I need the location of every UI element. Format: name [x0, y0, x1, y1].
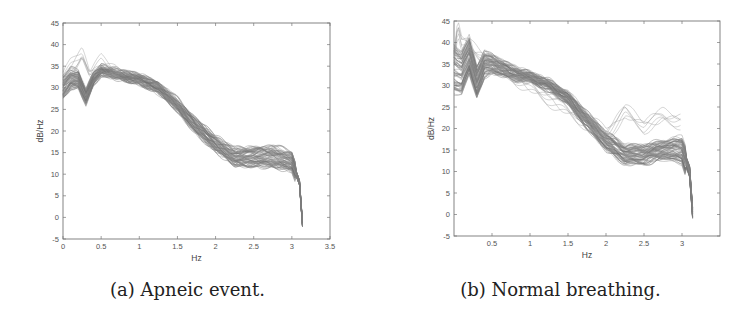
y-tick-label: 25	[51, 105, 59, 114]
x-tick-label: 3.5	[325, 242, 335, 251]
y-tick-label: 5	[446, 189, 450, 198]
y-tick-label: 0	[446, 210, 450, 219]
x-tick-label: 2	[604, 239, 608, 248]
y-axis-label: dB/Hz	[426, 117, 436, 140]
chart-panel-a: -505101520253035404500.511.522.533.5HzdB…	[0, 0, 375, 323]
y-tick-label: 5	[55, 191, 59, 200]
psd-traces	[63, 48, 303, 227]
y-tick-label: 45	[51, 19, 59, 28]
chart-panel-b: -50510152025303540450.511.522.53HzdB/Hz …	[375, 0, 750, 323]
caption-a: (a) Apneic event.	[0, 279, 375, 300]
x-tick-label: 0.5	[96, 242, 106, 251]
x-tick-label: 1.5	[563, 239, 573, 248]
x-tick-label: 0.5	[487, 239, 497, 248]
x-tick-label: 1	[137, 242, 141, 251]
psd-traces	[454, 23, 693, 219]
y-tick-label: 40	[442, 38, 450, 47]
y-tick-label: 45	[442, 17, 450, 26]
y-tick-label: 15	[442, 146, 450, 155]
y-tick-label: 40	[51, 40, 59, 49]
y-tick-label: 20	[51, 127, 59, 136]
y-tick-label: 0	[55, 213, 59, 222]
y-axis: -5051015202530354045	[442, 17, 720, 241]
x-axis-label: Hz	[191, 253, 201, 263]
x-tick-label: 2.5	[248, 242, 258, 251]
y-tick-label: 10	[442, 167, 450, 176]
y-tick-label: 20	[442, 124, 450, 133]
y-tick-label: -5	[52, 235, 59, 244]
x-tick-label: 1	[528, 239, 532, 248]
x-tick-label: 3	[290, 242, 294, 251]
x-axis: 0.511.522.53	[487, 21, 684, 248]
x-tick-label: 0	[61, 242, 65, 251]
x-tick-label: 3	[680, 239, 684, 248]
y-axis: -5051015202530354045	[51, 19, 330, 244]
y-tick-label: -5	[443, 232, 450, 241]
x-tick-label: 2	[213, 242, 217, 251]
psd-chart-apneic: -505101520253035404500.511.522.533.5HzdB…	[0, 0, 375, 280]
y-axis-label: dB/Hz	[35, 119, 45, 142]
x-axis-label: Hz	[582, 250, 592, 260]
psd-chart-normal: -50510152025303540450.511.522.53HzdB/Hz	[375, 0, 750, 280]
x-tick-label: 2.5	[639, 239, 649, 248]
y-tick-label: 25	[442, 103, 450, 112]
y-tick-label: 30	[442, 81, 450, 90]
y-tick-label: 35	[442, 60, 450, 69]
y-tick-label: 30	[51, 83, 59, 92]
y-tick-label: 15	[51, 148, 59, 157]
y-tick-label: 35	[51, 62, 59, 71]
x-tick-label: 1.5	[172, 242, 182, 251]
caption-b: (b) Normal breathing.	[373, 279, 748, 300]
y-tick-label: 10	[51, 170, 59, 179]
